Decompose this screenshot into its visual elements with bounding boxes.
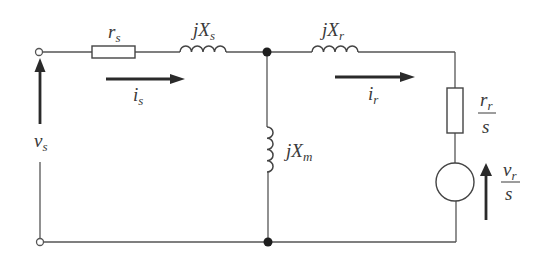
terminal-top <box>36 49 43 56</box>
rotor-current-label: ir <box>368 83 379 107</box>
rotor-inductor-label: jXr <box>319 19 345 43</box>
stator-current-arrow <box>106 74 185 84</box>
rotor-current-arrow <box>335 72 415 82</box>
stator-resistor-label: rs <box>108 21 120 45</box>
junction-bottom <box>264 238 273 247</box>
svg-text:s: s <box>505 183 512 204</box>
rotor-resistor-label: rr s <box>478 89 496 137</box>
stator-voltage-arrow <box>35 58 46 124</box>
circuit-diagram: rs jXs jXr jXm rr s vr s <box>0 0 544 257</box>
rotor-voltage-arrow <box>480 163 492 220</box>
rotor-resistor <box>447 88 463 133</box>
magnetizing-inductor-label: jXm <box>283 140 312 164</box>
stator-resistor <box>92 46 135 58</box>
svg-text:rr: rr <box>480 89 493 113</box>
svg-text:vr: vr <box>503 159 517 183</box>
stator-voltage-label: vs <box>34 130 48 154</box>
wires <box>40 52 456 242</box>
stator-current-label: is <box>133 84 143 108</box>
magnetizing-inductor <box>267 127 273 172</box>
junction-top <box>263 48 272 57</box>
svg-text:s: s <box>482 116 489 137</box>
stator-inductor <box>180 46 226 52</box>
stator-inductor-label: jXs <box>190 19 215 43</box>
rotor-voltage-label: vr s <box>501 159 520 204</box>
rotor-inductor <box>312 46 358 52</box>
terminal-bottom <box>37 239 44 246</box>
rotor-voltage-source <box>436 163 474 201</box>
